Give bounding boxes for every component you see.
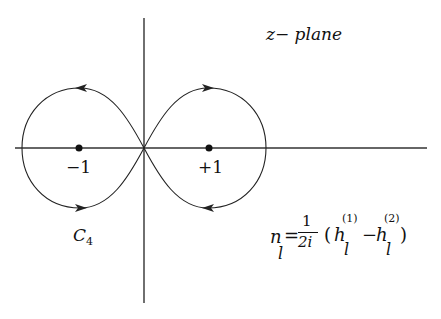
formula-h1-sub: l [344, 240, 349, 259]
formula-h1-sup: (1) [342, 212, 358, 225]
formula-frac-num: 1 [302, 212, 312, 230]
formula-frac-den: 2i [298, 233, 312, 251]
point-minus-one-label: −1 [66, 157, 91, 177]
point-minus-one [76, 145, 83, 152]
contour-label: C4 [73, 225, 93, 248]
formula-h2-sub: l [386, 240, 391, 259]
formula-minus: − [362, 224, 377, 245]
point-plus-one-label: +1 [198, 157, 223, 177]
formula: n l = 1 2i ( h (1) l − h (2) l ) [268, 210, 438, 270]
z-plane-label: z− plane [266, 24, 342, 44]
formula-close-paren: ) [400, 224, 407, 245]
point-plus-one [206, 145, 213, 152]
formula-h2-sup: (2) [384, 212, 400, 225]
formula-lhs-sub: l [278, 244, 283, 263]
formula-open-paren: ( [324, 224, 331, 245]
formula-equals: = [284, 225, 299, 246]
